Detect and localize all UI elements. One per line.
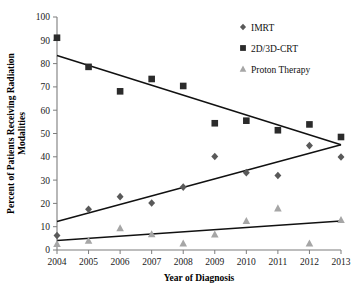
x-axis-title: Year of Diagnosis [164,273,235,283]
y-axis-tick-label: 10 [41,222,51,232]
legend-item-2d-3d-crt[interactable]: 2D/3D-CRT [240,44,298,54]
data-point [306,240,314,247]
chart-canvas: 0102030405060708090100200420052006200720… [0,0,354,289]
x-axis-tick-label: 2005 [79,257,98,267]
series-imrt [54,142,345,240]
x-axis-tick-label: 2011 [269,257,288,267]
data-point [211,153,218,161]
data-point [306,142,313,150]
data-point [116,224,124,231]
legend-label: IMRT [251,23,274,33]
trendline-proton-therapy [57,221,341,240]
legend-item-proton-therapy[interactable]: Proton Therapy [240,65,311,75]
x-axis-tick-label: 2012 [300,257,319,267]
y-axis-tick-label: 0 [45,245,50,255]
data-point [274,172,281,180]
data-point [85,64,92,71]
data-point [243,117,250,124]
x-axis-tick-label: 2013 [332,257,351,267]
legend-label: 2D/3D-CRT [251,44,298,54]
y-axis-tick-label: 30 [41,176,51,186]
data-point [54,34,61,41]
data-point [211,120,218,127]
y-axis-tick-label: 20 [41,199,51,209]
y-axis-title-line-2: Modalities [17,112,27,155]
y-axis-tick-label: 80 [41,59,51,69]
y-axis-tick-label: 60 [41,106,51,116]
y-axis-title-line-1: Percent of Patients Receiving Radiation [6,52,16,213]
data-point [117,193,124,201]
y-axis-tick-label: 70 [41,82,51,92]
legend-label: Proton Therapy [251,65,310,75]
x-axis-tick-label: 2007 [142,257,161,267]
chart-legend: IMRT2D/3D-CRTProton Therapy [240,23,311,75]
data-point [148,76,155,83]
data-point [274,204,282,211]
data-point [148,199,155,207]
data-point [179,240,187,247]
data-point [54,232,61,240]
data-point [338,153,345,161]
y-axis-title: Percent of Patients Receiving RadiationM… [6,52,27,213]
series-2d-3d-crt [54,34,345,140]
data-point [338,134,345,141]
y-axis-tick-label: 40 [41,152,51,162]
data-point [211,230,219,237]
data-point [53,240,61,247]
legend-swatch-diamond-icon [240,24,246,31]
y-axis-tick-label: 100 [36,12,51,22]
y-axis-tick-label: 50 [41,129,51,139]
x-axis-tick-label: 2008 [174,257,193,267]
legend-swatch-triangle-icon [240,66,247,72]
radiation-modality-scatter-chart: 0102030405060708090100200420052006200720… [0,0,354,289]
data-point [117,88,124,95]
legend-swatch-square-icon [240,45,246,51]
data-point [275,127,282,134]
data-point [306,121,313,128]
x-axis-tick-label: 2004 [48,257,67,267]
data-point [337,216,345,223]
x-axis-tick-label: 2009 [205,257,224,267]
y-axis-tick-label: 90 [41,36,51,46]
legend-item-imrt[interactable]: IMRT [240,23,274,33]
data-point [243,217,251,224]
x-axis-tick-label: 2006 [111,257,130,267]
data-point [180,183,187,191]
x-axis-tick-label: 2010 [237,257,256,267]
trendline-imrt [57,145,341,222]
data-point [180,83,187,90]
